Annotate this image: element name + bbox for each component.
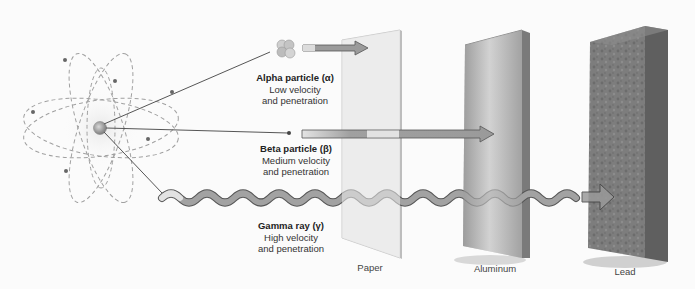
paper-label: Paper (345, 262, 395, 273)
beta-particle (106, 126, 494, 142)
gamma-desc-2: and penetration (236, 243, 346, 255)
atom-icon (20, 47, 182, 209)
gamma-title: Gamma ray (γ) (236, 220, 346, 232)
gamma-label: Gamma ray (γ) High velocity and penetrat… (236, 220, 346, 255)
lead-label: Lead (605, 266, 645, 277)
beta-label: Beta particle (β) Medium velocity and pe… (241, 143, 351, 178)
lead-barrier (583, 26, 668, 268)
beta-desc-1: Medium velocity (241, 155, 351, 167)
alpha-label: Alpha particle (α) Low velocity and pene… (240, 72, 350, 107)
beta-title: Beta particle (β) (241, 143, 351, 155)
alpha-desc-1: Low velocity (240, 84, 350, 96)
alpha-particle-icon (277, 40, 295, 58)
beta-desc-2: and penetration (241, 166, 351, 178)
aluminum-label: Aluminum (465, 263, 525, 274)
alpha-title: Alpha particle (α) (240, 72, 350, 84)
alpha-desc-2: and penetration (240, 95, 350, 107)
gamma-desc-1: High velocity (236, 232, 346, 244)
